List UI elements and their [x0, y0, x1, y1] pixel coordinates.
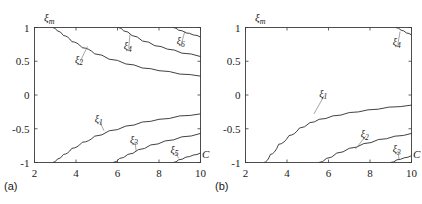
panel-b-xlabel: C: [413, 148, 421, 160]
panel-a-ylabel: ξm: [44, 11, 55, 26]
panel-a-yticklabel: 0.5: [16, 55, 30, 67]
panel-a-xticklabel: 4: [73, 167, 79, 179]
curve-a-5: [113, 133, 200, 162]
panel-a-xticklabel: 8: [156, 167, 162, 179]
curve-b-1: [396, 28, 412, 35]
panel-a-xticklabel: 6: [115, 167, 121, 179]
curve-label-a-4: ξ1: [95, 113, 103, 127]
curve-label-a-2: ξ4: [124, 40, 132, 54]
panel-b-yticks: -1-0.500.51: [223, 22, 411, 169]
panel-a-xticks: 246810: [32, 28, 207, 179]
panel-b-xticklabel: 10: [406, 167, 418, 179]
panel-b-xticklabel: 6: [326, 167, 332, 179]
panel-b-xticklabel: 8: [367, 167, 373, 179]
panel-a-xticklabel: 2: [32, 167, 38, 179]
panel-b-yticklabel: 0.5: [227, 55, 241, 67]
panel-b-yticklabel: 1: [235, 22, 241, 34]
panel-a-xlabel: C: [202, 148, 210, 160]
panel-a-yticklabel: 1: [24, 22, 30, 34]
panel-a-sublabel: (a): [4, 180, 17, 192]
curve-label-a-3: ξ6: [177, 35, 185, 49]
curve-label-a-1: ξ2: [75, 54, 83, 68]
figure-container: 246810 -1-0.500.51 ξ2ξ4ξ6ξ1ξ3ξ5 ξm C (a)…: [0, 0, 422, 204]
curve-label-a-5: ξ3: [130, 134, 138, 148]
panel-b-frame: [246, 28, 412, 163]
curve-label-b-2: ξ1: [319, 88, 327, 102]
curve-label-a-6: ξ5: [170, 144, 178, 158]
panel-a: 246810 -1-0.500.51 ξ2ξ4ξ6ξ1ξ3ξ5 ξm C (a): [0, 0, 211, 204]
panel-b-ylabel: ξm: [255, 11, 266, 26]
panel-b-sublabel: (b): [215, 180, 228, 192]
curve-label-b-3: ξ2: [361, 128, 369, 142]
panel-b: 246810 -1-0.500.51 ξ4ξ1ξ2ξ3 ξm C (b): [211, 0, 422, 204]
panel-a-frame: [35, 28, 201, 163]
panel-a-xticklabel: 10: [195, 167, 207, 179]
panel-b-yticklabel: 0: [235, 89, 241, 101]
panel-a-yticklabel: 0: [24, 89, 30, 101]
panel-b-xticks: 246810: [243, 28, 418, 179]
panel-b-plot: 246810 -1-0.500.51 ξ4ξ1ξ2ξ3 ξm C (b): [211, 0, 422, 204]
panel-b-yticklabel: -0.5: [223, 123, 241, 135]
panel-a-yticklabel: -0.5: [12, 123, 30, 135]
panel-b-xticklabel: 2: [243, 167, 249, 179]
curve-label-b-1: ξ4: [393, 36, 401, 50]
panel-a-plot: 246810 -1-0.500.51 ξ2ξ4ξ6ξ1ξ3ξ5 ξm C (a): [0, 0, 211, 204]
panel-b-xticklabel: 4: [284, 167, 290, 179]
panel-b-curves: [264, 28, 411, 163]
panel-b-labels: ξ4ξ1ξ2ξ3: [314, 32, 401, 160]
curve-b-2: [264, 105, 411, 162]
curve-label-b-4: ξ3: [393, 143, 401, 157]
panel-b-yticklabel: -1: [231, 157, 240, 169]
curve-b-4: [391, 156, 412, 163]
panel-a-yticklabel: -1: [20, 157, 29, 169]
